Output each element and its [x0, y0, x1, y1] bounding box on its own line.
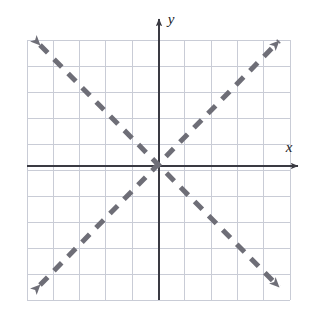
y-axis-label: y	[166, 11, 175, 27]
graph-figure: x y	[0, 0, 317, 313]
coordinate-plane-svg: x y	[0, 0, 317, 313]
x-axis-label: x	[285, 139, 293, 155]
axes	[27, 19, 298, 300]
